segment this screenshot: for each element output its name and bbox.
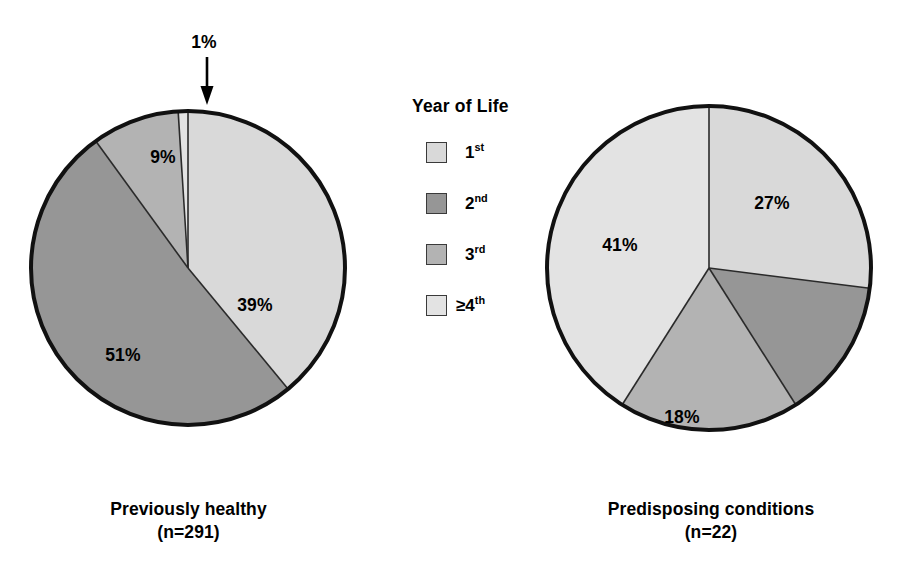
legend-item-3rd[interactable]: 3rd — [408, 241, 568, 267]
caption-title-left: Previously healthy — [110, 499, 266, 519]
caption-n-right: (n=22) — [556, 521, 866, 544]
legend-swatch-4th — [426, 295, 447, 316]
caption-predisposing-conditions: Predisposing conditions (n=22) — [556, 498, 866, 544]
slice-label-right-4th: 41% — [602, 235, 638, 256]
legend: Year of Life 1st 2nd 3rd ≥4th — [408, 96, 568, 318]
legend-label-1st: 1st — [465, 144, 484, 161]
caption-n-left: (n=291) — [36, 521, 341, 544]
slice-label-right-1st: 27% — [754, 193, 790, 214]
slice-label-right-3rd: 18% — [664, 407, 700, 428]
legend-item-2nd[interactable]: 2nd — [408, 190, 568, 216]
legend-label-3rd: 3rd — [465, 246, 485, 263]
legend-title: Year of Life — [412, 96, 568, 117]
legend-swatch-1st — [426, 142, 447, 163]
legend-label-2nd: 2nd — [465, 195, 488, 212]
legend-item-4th[interactable]: ≥4th — [408, 292, 568, 318]
legend-swatch-2nd — [426, 193, 447, 214]
caption-title-right: Predisposing conditions — [608, 499, 814, 519]
down-arrow-icon — [201, 57, 214, 105]
caption-previously-healthy: Previously healthy (n=291) — [36, 498, 341, 544]
legend-item-1st[interactable]: 1st — [408, 139, 568, 165]
figure-root: 39% 51% 9% 1% 27% 18% 41% Year of Life 1… — [0, 0, 920, 583]
legend-label-4th: ≥4th — [456, 297, 485, 314]
legend-swatch-3rd — [426, 244, 447, 265]
